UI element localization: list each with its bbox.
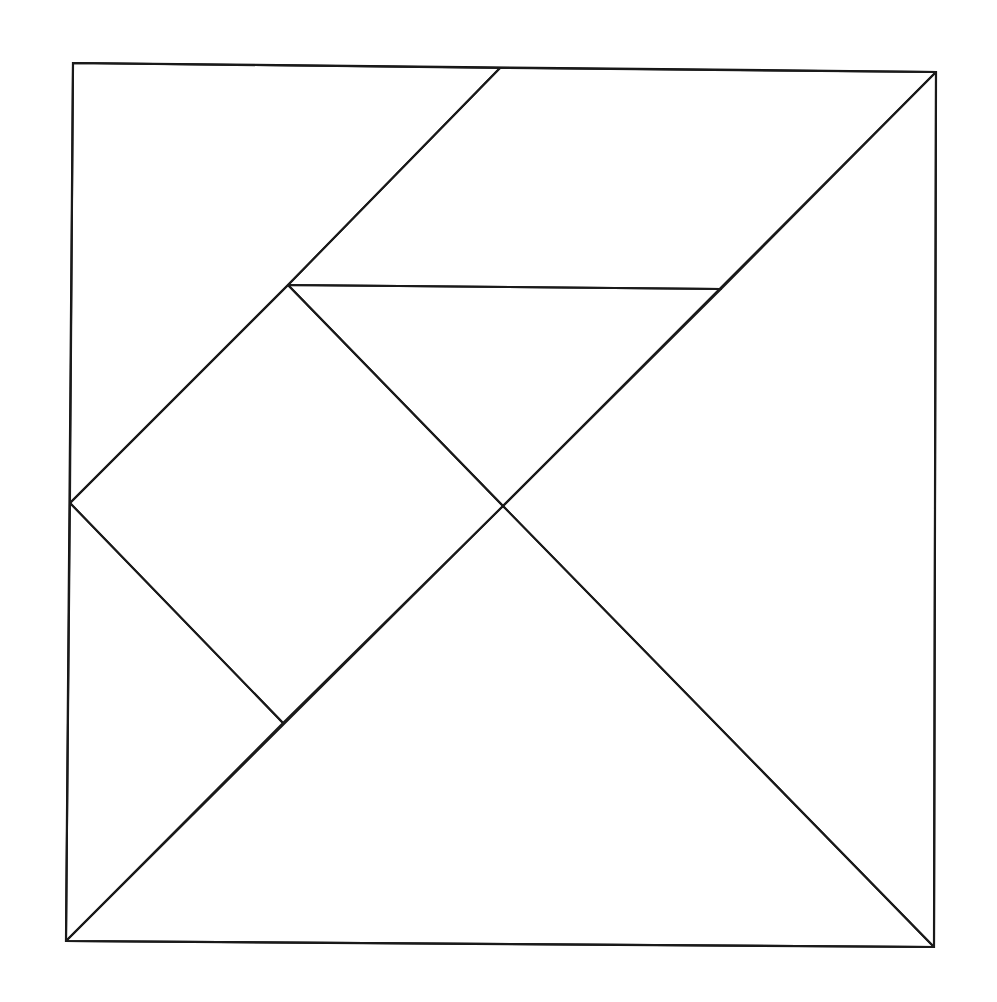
large-triangle-bottom [66, 506, 934, 947]
tangram-diagram [0, 0, 997, 1002]
square-middle [70, 285, 503, 723]
small-triangle-middle [288, 285, 721, 506]
tangram-pieces [66, 63, 936, 947]
parallelogram-top [288, 68, 936, 289]
large-triangle-right [503, 72, 936, 947]
small-triangle-left [66, 503, 283, 941]
